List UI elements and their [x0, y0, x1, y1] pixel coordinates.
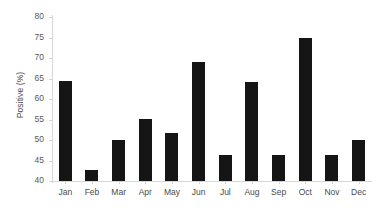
x-axis-tick-label: Sep	[265, 187, 292, 198]
bar[interactable]	[59, 81, 72, 181]
x-axis-tick-label: Dec	[345, 187, 372, 198]
x-axis-tick-mark	[92, 181, 93, 184]
y-axis-tick-label: 45	[35, 155, 44, 166]
x-axis-tick-mark	[225, 181, 226, 184]
x-axis-tick-mark	[199, 181, 200, 184]
x-axis-tick-label: Oct	[292, 187, 319, 198]
bar-slot	[105, 17, 132, 181]
x-axis-tick-label: Aug	[239, 187, 266, 198]
y-axis-tick-label: 70	[35, 52, 44, 63]
x-axis-tick-mark	[65, 181, 66, 184]
bar[interactable]	[325, 155, 338, 181]
bar-slot	[185, 17, 212, 181]
bar[interactable]	[299, 38, 312, 182]
bar[interactable]	[192, 62, 205, 181]
bar[interactable]	[352, 140, 365, 181]
x-axis-tick-mark	[119, 181, 120, 184]
x-axis-tick-mark	[252, 181, 253, 184]
bar-slot	[79, 17, 106, 181]
bar[interactable]	[219, 155, 232, 181]
bar-slot	[239, 17, 266, 181]
y-axis-tick-label: 75	[35, 32, 44, 43]
plot-area	[52, 17, 372, 181]
x-axis-tick-label: Jul	[212, 187, 239, 198]
bar[interactable]	[272, 155, 285, 181]
y-axis-ticks: 404550556065707580	[0, 17, 52, 181]
x-axis-tick-mark	[172, 181, 173, 184]
y-axis-tick-label: 60	[35, 93, 44, 104]
y-axis-tick-label: 40	[35, 175, 44, 186]
bar[interactable]	[165, 133, 178, 181]
bar[interactable]	[245, 82, 258, 181]
x-axis-tick-label: Jan	[52, 187, 79, 198]
bar-slot	[265, 17, 292, 181]
x-axis-tick-mark	[145, 181, 146, 184]
x-axis-tick-mark	[359, 181, 360, 184]
x-axis-line	[52, 181, 372, 182]
y-axis-tick-label: 65	[35, 73, 44, 84]
x-axis-tick-mark	[332, 181, 333, 184]
x-axis-tick-label: Jun	[185, 187, 212, 198]
x-axis-labels: JanFebMarAprMayJunJulAugSepOctNovDec	[52, 184, 372, 204]
bar-slot	[292, 17, 319, 181]
bar-slot	[319, 17, 346, 181]
bar-slot	[212, 17, 239, 181]
x-axis-tick-label: May	[159, 187, 186, 198]
bar-slot	[52, 17, 79, 181]
bar[interactable]	[139, 119, 152, 181]
bar[interactable]	[85, 170, 98, 181]
y-axis-tick-label: 50	[35, 134, 44, 145]
x-axis-tick-label: Mar	[105, 187, 132, 198]
bar-slot	[345, 17, 372, 181]
y-axis-tick-label: 55	[35, 114, 44, 125]
x-axis-tick-mark	[305, 181, 306, 184]
bar-slot	[159, 17, 186, 181]
x-axis-tick-label: Feb	[79, 187, 106, 198]
x-axis-tick-label: Nov	[319, 187, 346, 198]
x-axis-tick-label: Apr	[132, 187, 159, 198]
bar-chart: Positive (%) 404550556065707580 JanFebMa…	[0, 0, 392, 220]
bar[interactable]	[112, 140, 125, 181]
y-axis-tick-label: 80	[35, 11, 44, 22]
x-axis-tick-mark	[279, 181, 280, 184]
bar-slot	[132, 17, 159, 181]
